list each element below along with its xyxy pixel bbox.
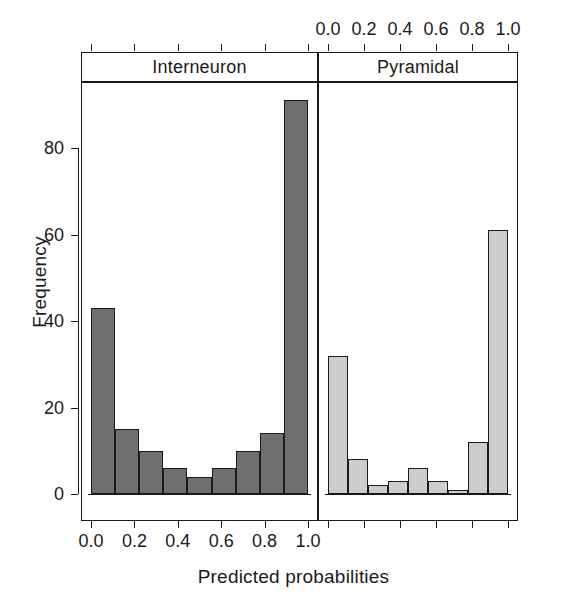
histogram-bar — [488, 230, 508, 494]
y-tick-label: 0 — [20, 485, 64, 503]
x-tick-mark — [91, 521, 92, 528]
y-tick-label: 40 — [20, 312, 64, 330]
x-tick-mark — [308, 521, 309, 528]
bar-baseline — [88, 494, 311, 495]
histogram-bar — [348, 459, 368, 494]
histogram-bar — [115, 429, 139, 494]
y-axis-line — [78, 148, 79, 494]
histogram-bar — [187, 477, 211, 494]
x-tick-mark — [265, 521, 266, 528]
histogram-bar — [139, 451, 163, 494]
x-tick-mark — [400, 44, 401, 51]
histogram-bar — [91, 308, 115, 494]
histogram-bar — [368, 485, 388, 494]
x-tick-label: 1.0 — [486, 20, 530, 38]
x-tick-mark-mirror — [364, 521, 365, 528]
bars-pyramidal — [328, 85, 508, 494]
x-tick-mark-mirror — [265, 44, 266, 51]
histogram-bar — [236, 451, 260, 494]
x-tick-label: 0.6 — [199, 532, 243, 550]
x-axis-label: Predicted probabilities — [0, 566, 587, 588]
x-tick-mark — [134, 521, 135, 528]
x-tick-mark — [508, 44, 509, 51]
histogram-bar — [328, 356, 348, 494]
x-tick-mark-mirror — [328, 521, 329, 528]
bar-baseline — [325, 494, 511, 495]
y-tick-mark — [71, 494, 78, 495]
x-tick-label: 1.0 — [286, 532, 330, 550]
x-tick-mark-mirror — [134, 44, 135, 51]
x-tick-mark-mirror — [472, 521, 473, 528]
x-tick-mark — [328, 44, 329, 51]
x-tick-label: 0.0 — [69, 532, 113, 550]
x-tick-mark-mirror — [91, 44, 92, 51]
y-tick-mark — [71, 321, 78, 322]
x-tick-mark-mirror — [508, 521, 509, 528]
histogram-bar — [388, 481, 408, 494]
histogram-figure: Frequency 020406080 InterneuronPyramidal… — [0, 0, 587, 602]
x-tick-mark — [221, 521, 222, 528]
panel-strip-label-interneuron: Interneuron — [81, 52, 318, 82]
x-tick-mark — [472, 44, 473, 51]
x-tick-mark — [178, 521, 179, 528]
x-tick-mark-mirror — [308, 44, 309, 51]
x-tick-label: 0.8 — [243, 532, 287, 550]
histogram-bar — [212, 468, 236, 494]
y-tick-mark — [71, 148, 78, 149]
y-tick-label: 20 — [20, 399, 64, 417]
x-tick-label: 0.4 — [156, 532, 200, 550]
panel-strip-label-pyramidal: Pyramidal — [318, 52, 518, 82]
histogram-bar — [468, 442, 488, 494]
histogram-bar — [408, 468, 428, 494]
x-tick-mark — [436, 44, 437, 51]
bars-interneuron — [91, 85, 308, 494]
y-tick-mark — [71, 235, 78, 236]
y-tick-mark — [71, 408, 78, 409]
x-tick-mark-mirror — [436, 521, 437, 528]
x-tick-mark-mirror — [221, 44, 222, 51]
y-tick-label: 60 — [20, 226, 64, 244]
x-tick-mark-mirror — [178, 44, 179, 51]
histogram-bar — [260, 433, 284, 494]
histogram-bar — [428, 481, 448, 494]
y-tick-label: 80 — [20, 139, 64, 157]
x-tick-label: 0.2 — [112, 532, 156, 550]
histogram-bar — [163, 468, 187, 494]
x-tick-mark — [364, 44, 365, 51]
histogram-bar — [284, 100, 308, 494]
x-tick-mark-mirror — [400, 521, 401, 528]
